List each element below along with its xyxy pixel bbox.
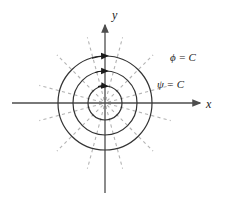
radial-ray	[87, 37, 104, 100]
radial-ray	[57, 55, 103, 101]
flow-direction-arrow-inner	[98, 86, 105, 87]
phi-equals-C-label: ϕ = C	[170, 52, 196, 63]
radial-ray	[107, 105, 153, 151]
radial-ray	[106, 106, 123, 169]
radial-ray	[39, 85, 102, 102]
radial-ray	[87, 106, 104, 169]
flow-direction-arrow-outer	[92, 56, 105, 58]
radial-ray	[57, 105, 103, 151]
flow-direction-arrow-middle	[95, 71, 105, 73]
y-axis-label: y	[112, 9, 117, 21]
radial-ray	[106, 37, 123, 100]
polar-flow-net-figure: y x ϕ = C ψ = C	[0, 0, 225, 203]
radial-ray	[39, 104, 102, 121]
psi-equals-C-label: ψ = C	[157, 79, 184, 90]
radial-ray	[108, 104, 171, 121]
figure-canvas	[0, 0, 225, 203]
radial-ray	[107, 55, 153, 101]
x-axis-label: x	[206, 98, 211, 110]
